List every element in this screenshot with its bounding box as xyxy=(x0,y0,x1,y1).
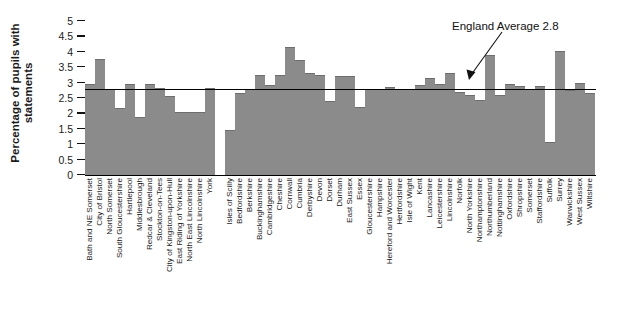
x-axis-tick-label-text: Buckinghamshire xyxy=(256,178,264,240)
x-axis-tick-label-text: Leicestershire xyxy=(436,178,444,228)
bar-cell xyxy=(345,21,355,175)
y-axis-tick-mark xyxy=(77,82,85,83)
x-axis-tick-label: East Sussex xyxy=(345,176,355,309)
bar-cell xyxy=(355,21,365,175)
x-axis-tick-label-text: York xyxy=(206,178,214,194)
bar-cell xyxy=(375,21,385,175)
x-axis-tick-label: Derbyshire xyxy=(305,176,315,309)
bar xyxy=(235,93,244,175)
x-axis-tick-label: Hampshire xyxy=(375,176,385,309)
y-axis-tick-label: 4 xyxy=(67,46,73,58)
x-axis-tick-label-text: Dorset xyxy=(326,178,334,202)
chart-figure: Percentage of pupils with statements 54.… xyxy=(0,0,620,311)
y-axis-tick-label: 1 xyxy=(67,138,73,150)
x-axis-tick-label-text: Hartlepool xyxy=(126,178,134,215)
bar xyxy=(475,100,484,175)
x-axis-tick-label-text: Middlesbrough xyxy=(136,178,144,231)
x-axis-tick-label-text: South Gloucestershire xyxy=(116,178,124,258)
x-axis-tick-label-text: Hereford and Worcester xyxy=(386,178,394,264)
y-axis-tick-mark xyxy=(77,159,85,160)
bar xyxy=(465,95,474,175)
x-axis-tick-label-text: Staffordshire xyxy=(536,178,544,224)
bar-cell xyxy=(415,21,425,175)
y-axis-tick: 4 xyxy=(0,46,85,58)
x-axis-tick-label-text: Shropshire xyxy=(516,178,524,217)
x-axis-tick-label: Bath and NE Somerset xyxy=(85,176,95,309)
y-axis-tick: 1 xyxy=(0,138,85,150)
y-axis-tick-label: 4.5 xyxy=(58,30,73,42)
x-axis-tick-label: Berkshire xyxy=(245,176,255,309)
bar xyxy=(105,89,114,175)
y-axis-tick: 1.5 xyxy=(0,123,85,135)
bar xyxy=(225,130,234,175)
x-axis-tick-label: North Lincolnshire xyxy=(195,176,205,309)
bar-cell xyxy=(265,21,275,175)
y-axis-tick: 4.5 xyxy=(0,30,85,42)
x-axis-tick-label: Wiltshire xyxy=(585,176,595,309)
y-axis-tick-label: 1.5 xyxy=(58,123,73,135)
x-axis-tick-label-text: Norfolk xyxy=(456,178,464,204)
x-axis-tick-label-text: Redcar & Cleveland xyxy=(146,178,154,250)
x-axis-tick-label-text: Surrey xyxy=(556,178,564,202)
bar-cell xyxy=(305,21,315,175)
y-axis-tick-mark xyxy=(77,112,85,113)
bar-cell xyxy=(85,21,95,175)
x-axis-tick-label: City of Kingston-upon-Hull xyxy=(165,176,175,309)
x-axis-tick-label: Somerset xyxy=(525,176,535,309)
x-axis-tick-label-text: East Riding of Yorkshire xyxy=(176,178,184,264)
x-axis-tick-label: Suffolk xyxy=(545,176,555,309)
bar-cell xyxy=(545,21,555,175)
bar-cell xyxy=(405,21,415,175)
bar-cell xyxy=(535,21,545,175)
x-axis-tick-label-text: West Sussex xyxy=(576,178,584,225)
bar xyxy=(585,93,594,175)
x-axis-tick-label-text: Gloucestershire xyxy=(366,178,374,235)
bar-cell xyxy=(565,21,575,175)
x-axis-tick-label-text: Northumberland xyxy=(486,178,494,236)
bar xyxy=(185,112,194,175)
x-axis-tick-label-text: City of Bristol xyxy=(96,178,104,226)
bar-cell xyxy=(145,21,155,175)
x-axis-tick-label-text: Isles of Scilly xyxy=(226,178,234,225)
x-axis-tick-label-text: Durham xyxy=(336,178,344,207)
x-axis-tick-label-text: Warwickshire xyxy=(566,178,574,226)
x-axis-tick-label: Stockton-on-Tees xyxy=(155,176,165,309)
x-axis-tick-label-text: Bath and NE Somerset xyxy=(86,178,94,261)
y-axis-tick-mark xyxy=(77,128,85,129)
bar-cell xyxy=(135,21,145,175)
x-axis-tick-label-text: Berkshire xyxy=(246,178,254,212)
bar-cell xyxy=(115,21,125,175)
annotation-arrow-icon xyxy=(440,30,520,100)
bar xyxy=(495,95,504,175)
x-axis-tick-label: Redcar & Cleveland xyxy=(145,176,155,309)
y-axis-tick-label: 0 xyxy=(67,169,73,181)
bar xyxy=(355,107,364,175)
y-axis-tick-label: 3.5 xyxy=(58,61,73,73)
bar xyxy=(135,117,144,175)
bar-cell xyxy=(155,21,165,175)
x-axis-tick-label-text: Lincolnshire xyxy=(446,178,454,221)
y-axis-tick-mark xyxy=(77,66,85,67)
bar-cell xyxy=(175,21,185,175)
y-axis-tick-label: 0.5 xyxy=(58,154,73,166)
bar-cell xyxy=(235,21,245,175)
bar xyxy=(175,112,184,175)
bar xyxy=(85,84,94,175)
y-axis-tick-mark xyxy=(77,174,85,175)
x-axis-tick-label: Kent xyxy=(415,176,425,309)
bar xyxy=(335,76,344,175)
x-axis-tick-label-text: Somerset xyxy=(526,178,534,213)
x-axis-tick-label-text: Hampshire xyxy=(376,178,384,217)
x-axis-tick-label: Northumberland xyxy=(485,176,495,309)
bar-cell xyxy=(215,21,225,175)
x-axis-tick-label: Devon xyxy=(315,176,325,309)
x-axis-tick-label-text: City of Kingston-upon-Hull xyxy=(166,178,174,272)
bar xyxy=(345,76,354,175)
bar xyxy=(145,84,154,175)
x-axis-tick-label: West Sussex xyxy=(575,176,585,309)
bar-cell xyxy=(275,21,285,175)
x-axis-tick-label: City of Bristol xyxy=(95,176,105,309)
y-axis-tick-mark xyxy=(77,143,85,144)
x-axis-tick-label: Gloucestershire xyxy=(365,176,375,309)
y-axis-tick-mark xyxy=(77,51,85,52)
